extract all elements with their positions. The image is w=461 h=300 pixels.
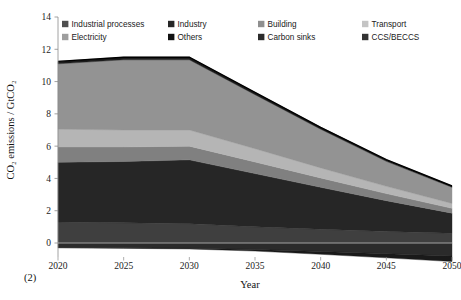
x-axis-title: Year	[240, 279, 260, 290]
y-tick-label: 8	[46, 109, 51, 119]
legend-swatch	[258, 21, 264, 27]
y-axis-title: CO₂ emissions / GtCO₂	[5, 80, 16, 180]
x-tick-label: 2025	[114, 261, 133, 271]
legend-label: Transport	[372, 20, 407, 29]
y-tick-label: 2	[46, 206, 51, 216]
x-tick-label: 2035	[246, 261, 265, 271]
x-tick-label: 2050	[443, 261, 461, 271]
legend-swatch	[62, 21, 68, 27]
legend-swatch	[258, 34, 264, 40]
legend-swatch	[62, 34, 68, 40]
figure-container: 02468101214 2020202520302035204020452050…	[0, 0, 461, 300]
y-tick-label: 6	[46, 142, 51, 152]
legend-label: Industrial processes	[72, 20, 145, 29]
figure-label: (2)	[24, 272, 37, 284]
x-tick-label: 2030	[180, 261, 199, 271]
y-tick-label: 4	[46, 174, 51, 184]
legend-label: CCS/BECCS	[372, 33, 420, 42]
y-tick-label: 0	[46, 238, 51, 248]
legend-label: Carbon sinks	[268, 33, 316, 42]
x-tick-label: 2040	[311, 261, 330, 271]
legend-label: Electricity	[72, 33, 108, 42]
x-tick-label: 2020	[49, 261, 68, 271]
legend-label: Building	[268, 20, 298, 29]
x-tick-label: 2045	[377, 261, 396, 271]
legend-label: Others	[178, 33, 203, 42]
y-tick-label: 14	[42, 12, 52, 22]
legend-swatch	[168, 21, 174, 27]
legend-label: Industry	[178, 20, 208, 29]
y-tick-label: 12	[42, 45, 52, 55]
stacked-area-chart: 02468101214 2020202520302035204020452050…	[0, 0, 461, 300]
legend-swatch	[168, 34, 174, 40]
y-tick-label: 10	[42, 77, 52, 87]
legend-swatch	[362, 21, 368, 27]
legend-swatch	[362, 34, 368, 40]
